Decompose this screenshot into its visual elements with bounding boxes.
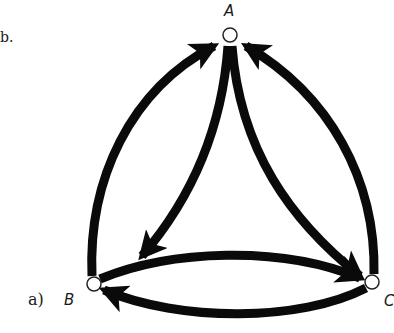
node-label-a: A bbox=[224, 4, 234, 19]
node-label-b: B bbox=[64, 293, 74, 308]
node-label-c: C bbox=[384, 294, 394, 309]
part-label: a) bbox=[28, 292, 44, 308]
edge-a-to-b bbox=[142, 46, 228, 256]
node-b bbox=[87, 277, 101, 291]
node-c bbox=[365, 275, 379, 289]
edge-b-to-c bbox=[100, 255, 360, 279]
edge-c-to-b bbox=[104, 288, 366, 314]
node-a bbox=[223, 28, 237, 42]
